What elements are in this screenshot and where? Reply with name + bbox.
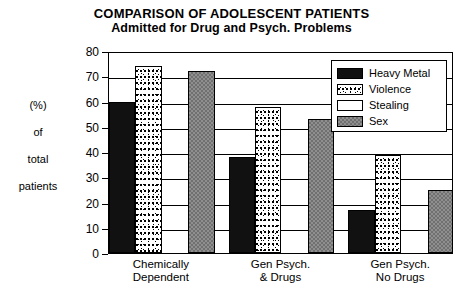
- y-axis-tick: [102, 77, 108, 78]
- bar-sex-gen-psych-drugs: [308, 119, 334, 253]
- y-axis-label: (%) of total patients: [2, 92, 74, 200]
- bar-heavy-metal-gen-psych-drugs: [229, 157, 255, 253]
- chart-title-block: COMPARISON OF ADOLESCENT PATIENTS Admitt…: [0, 6, 463, 36]
- bar-heavy-metal-chemically-dependent: [109, 102, 135, 254]
- legend-item-stealing[interactable]: Stealing: [337, 97, 441, 113]
- x-axis-group-label-2: Gen Psych.& Drugs: [228, 258, 334, 284]
- legend-item-sex[interactable]: Sex: [337, 113, 441, 129]
- chart-subtitle: Admitted for Drug and Psych. Problems: [0, 21, 463, 36]
- x-axis-group-label-line: Gen Psych.: [228, 258, 334, 271]
- y-axis-tick-label: 70: [69, 77, 99, 78]
- y-axis-tick: [102, 103, 108, 104]
- y-axis-label-line-2: of: [2, 119, 74, 146]
- legend-label-violence: Violence: [369, 83, 411, 95]
- page-title: COMPARISON OF ADOLESCENT PATIENTS: [0, 6, 463, 21]
- y-axis-tick: [102, 52, 108, 53]
- y-axis-tick-label: 50: [69, 127, 99, 128]
- bar-violence-gen-psych-no-drugs: [375, 155, 401, 253]
- y-axis-tick-label: 40: [69, 153, 99, 154]
- y-axis-tick: [102, 128, 108, 129]
- x-axis-group-label-line: Chemically: [108, 258, 214, 271]
- legend-swatch-icon-violence: [337, 84, 363, 95]
- y-axis-label-line-4: patients: [2, 173, 74, 200]
- y-axis-tick: [102, 178, 108, 179]
- bar-heavy-metal-gen-psych-no-drugs: [348, 210, 374, 253]
- y-axis-tick: [102, 204, 108, 205]
- y-axis-tick-label: 30: [69, 178, 99, 179]
- bar-sex-gen-psych-no-drugs: [428, 190, 453, 253]
- legend-swatch-icon-heavy-metal: [337, 68, 363, 79]
- legend-item-heavy-metal[interactable]: Heavy Metal: [337, 65, 441, 81]
- y-axis-label-line-3: total: [2, 146, 74, 173]
- chart-legend: Heavy Metal Violence Stealing Sex: [331, 60, 447, 132]
- legend-item-violence[interactable]: Violence: [337, 81, 441, 97]
- y-axis-label-line-1: (%): [2, 92, 74, 119]
- y-axis-tick-label: 80: [69, 52, 99, 53]
- legend-swatch-icon-stealing: [337, 100, 363, 111]
- x-axis-group-label-line: Dependent: [108, 271, 214, 284]
- y-axis-tick: [102, 229, 108, 230]
- y-axis-tick-label: 20: [69, 203, 99, 204]
- legend-swatch-icon-sex: [337, 116, 363, 127]
- y-axis-tick-label: 60: [69, 102, 99, 103]
- bar-sex-chemically-dependent: [188, 71, 214, 253]
- x-axis-group-label-3: Gen Psych.No Drugs: [347, 258, 453, 284]
- x-axis-group-label-line: & Drugs: [228, 271, 334, 284]
- y-axis-tick-label: 10: [69, 228, 99, 229]
- y-axis-tick: [102, 254, 108, 255]
- y-axis-tick-label: 0: [69, 254, 99, 255]
- legend-label-stealing: Stealing: [369, 99, 409, 111]
- bar-violence-chemically-dependent: [135, 66, 161, 253]
- x-axis-group-label-line: No Drugs: [347, 271, 453, 284]
- y-axis-tick: [102, 153, 108, 154]
- bar-violence-gen-psych-drugs: [255, 107, 281, 253]
- legend-label-heavy-metal: Heavy Metal: [369, 67, 430, 79]
- x-axis-group-label-1: ChemicallyDependent: [108, 258, 214, 284]
- legend-label-sex: Sex: [369, 115, 388, 127]
- x-axis-group-label-line: Gen Psych.: [347, 258, 453, 271]
